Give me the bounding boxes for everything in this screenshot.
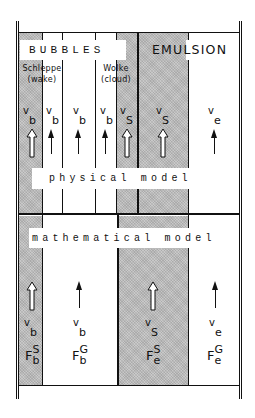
top-line (19, 32, 240, 33)
hollow-arrow-up-icon (147, 281, 159, 311)
flux-emulsion-solid: FSe (146, 349, 160, 366)
bubbles-label: BUBBLES (29, 43, 105, 57)
solid-arrow-up-icon (79, 289, 80, 308)
hollow-arrow-up-icon (157, 128, 169, 158)
hollow-arrow-up-icon (26, 128, 38, 158)
math-velocity-bubble-solid: vb (24, 316, 37, 334)
flux-bubble-solid: FSb (25, 349, 39, 366)
flux-bubble-gas: FGb (72, 349, 88, 366)
solid-arrow-up-icon (78, 137, 79, 154)
velocity-bubble-1: vb (46, 104, 59, 122)
velocity-emulsion-gas: ve (208, 104, 221, 122)
model-separator-line (19, 213, 240, 215)
right-wall (239, 21, 242, 399)
solid-arrow-up-icon (214, 137, 215, 154)
wake-label-de: Schleppe (20, 64, 64, 74)
hollow-arrow-up-icon (26, 281, 38, 311)
bottom-line (19, 385, 240, 386)
velocity-emulsion-solid: vS (156, 104, 169, 122)
flux-emulsion-gas: FGe (207, 349, 223, 366)
velocity-wake: vb (23, 104, 36, 122)
solid-arrow-up-icon (105, 137, 106, 154)
emulsion-label: EMULSION (152, 42, 227, 57)
solid-arrow-up-icon (215, 289, 216, 308)
wake-label-en: (wake) (20, 75, 64, 85)
left-wall (16, 21, 19, 399)
mathematical-model-label: mathematical model (32, 232, 216, 245)
math-velocity-bubble-gas: vb (73, 316, 86, 334)
math-velocity-emulsion-gas: ve (209, 316, 222, 334)
math-velocity-emulsion-solid: vS (145, 316, 158, 334)
hollow-arrow-up-icon (121, 128, 133, 158)
physical-model-label: physical model (49, 172, 192, 185)
fluidized-bed-diagram: BUBBLES EMULSION Schleppe (wake) Wolke (… (0, 0, 255, 418)
velocity-cloud: vS (120, 104, 133, 122)
velocity-bubble-3: vb (100, 104, 113, 122)
cloud-label-de: Wolke (96, 64, 136, 74)
velocity-bubble-2: vb (73, 104, 86, 122)
solid-arrow-up-icon (51, 137, 52, 154)
cloud-label-en: (cloud) (96, 75, 136, 85)
